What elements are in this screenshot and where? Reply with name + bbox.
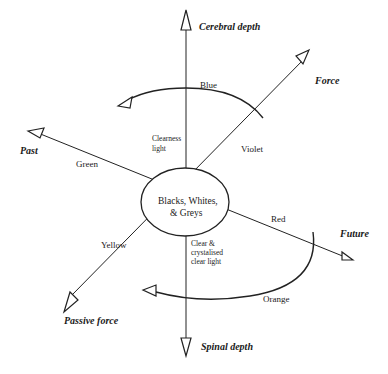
orange-arc — [156, 232, 314, 299]
color-label-red: Red — [271, 214, 286, 224]
center-label-line1: Blacks, Whites, — [158, 196, 218, 206]
orange-arc-arrowhead-icon — [143, 285, 156, 296]
future-arrowhead-icon — [342, 252, 353, 260]
note-clear-light: clear light — [191, 257, 222, 266]
axis-label-passive-force: Passive force — [64, 315, 119, 326]
note-clearness: Clearness — [152, 134, 181, 143]
axis-label-future: Future — [339, 228, 369, 239]
center-label-line2: & Greys — [170, 208, 203, 218]
passive-force-arrowhead-icon — [64, 292, 78, 312]
diagram-canvas: Cerebral depth Spinal depth Force Passiv… — [0, 0, 388, 374]
color-label-green: Green — [76, 159, 98, 169]
past-arrowhead-icon — [28, 128, 44, 138]
axis-label-past: Past — [20, 145, 39, 156]
note-crystalised: crystalised — [191, 248, 223, 257]
axis-label-spinal-depth: Spinal depth — [201, 341, 253, 352]
color-label-yellow: Yellow — [101, 240, 127, 250]
cerebral-depth-arrowhead-icon — [181, 10, 191, 30]
force-arrowhead-icon — [296, 50, 309, 64]
spinal-depth-arrowhead-icon — [181, 338, 191, 356]
color-label-orange: Orange — [263, 294, 290, 304]
note-clear-and: Clear & — [191, 239, 215, 248]
axis-label-cerebral-depth: Cerebral depth — [199, 21, 261, 32]
color-label-blue: Blue — [200, 80, 217, 90]
note-light: light — [152, 144, 167, 153]
color-label-violet: Violet — [241, 144, 263, 154]
blue-arc-arrowhead-icon — [118, 97, 132, 108]
blue-arc — [128, 88, 263, 118]
axis-label-force: Force — [314, 75, 340, 86]
